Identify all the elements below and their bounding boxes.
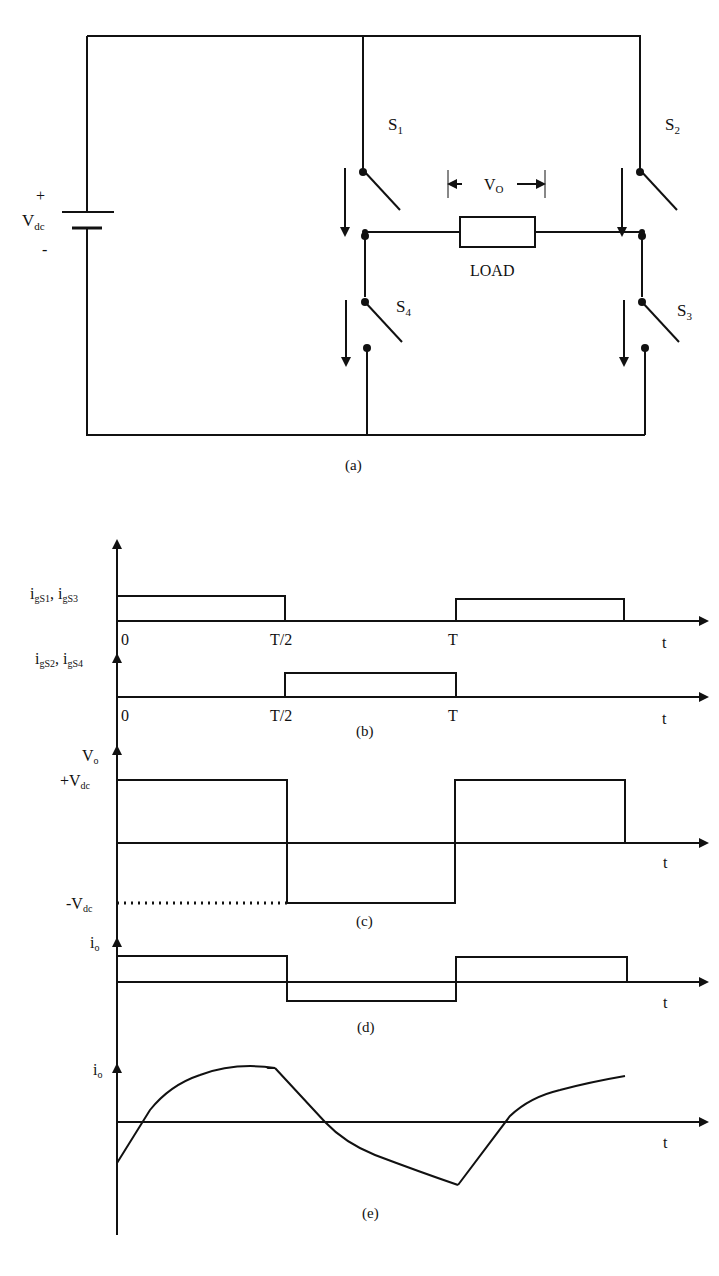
caption-a: (a) [345, 457, 362, 474]
circuit-wires [87, 36, 645, 480]
tick-t2-b2: T/2 [270, 707, 292, 724]
t-label-c: t [663, 854, 668, 871]
switch-s1 [345, 168, 400, 232]
switch-s3 [624, 300, 679, 362]
t-label-b2: t [662, 710, 667, 727]
pos-vdc-label: +Vdc [60, 772, 91, 791]
gate1-ylabel: igS1, igS3 [30, 585, 78, 604]
t-label-b1: t [662, 634, 667, 651]
tick-0-b1: 0 [121, 631, 129, 648]
gate2-ylabel: igS2, igS4 [35, 650, 83, 669]
circuit-nodes [359, 168, 649, 352]
load-label: LOAD [470, 262, 514, 279]
caption-b: (b) [356, 723, 374, 740]
switch-s4 [346, 300, 402, 362]
vo-ylabel: Vo [82, 747, 99, 766]
s4-label: S4 [396, 297, 411, 318]
load-resistor [460, 217, 535, 247]
neg-vdc-label: -Vdc [66, 895, 93, 914]
s3-label: S3 [677, 301, 692, 322]
s1-label: S1 [388, 115, 403, 136]
tick-t-b1: T [448, 631, 458, 648]
io-ylabel-e: io [93, 1061, 102, 1080]
caption-e: (e) [362, 1205, 379, 1222]
gate2-pulse [285, 673, 456, 697]
inverter-figure: Vdc + - S1 S2 S3 S4 LOAD VO (a) [0, 0, 719, 1276]
tick-t2-b1: T/2 [270, 631, 292, 648]
gate1-pulse2 [456, 599, 624, 621]
minus-sign: - [42, 241, 47, 258]
caption-d: (d) [357, 1019, 375, 1036]
io-ylabel-d: io [90, 934, 99, 953]
vdc-label: Vdc [22, 211, 45, 232]
t-label-e: t [663, 1134, 668, 1151]
io-curve-fall [275, 1068, 458, 1185]
io-curve-rise-1 [117, 1066, 275, 1163]
tick-t-b2: T [448, 707, 458, 724]
switch-s2 [622, 168, 677, 232]
plus-sign: + [36, 187, 45, 204]
t-label-d: t [663, 994, 668, 1011]
s2-label: S2 [665, 115, 680, 136]
dc-source [62, 212, 114, 228]
io-curve-rise-2 [458, 1076, 625, 1185]
vo-label: VO [484, 176, 504, 195]
io-square-waveform [117, 956, 627, 1001]
caption-c: (c) [356, 913, 373, 930]
gate1-pulse1 [117, 596, 285, 621]
vo-waveform [117, 780, 625, 903]
tick-0-b2: 0 [121, 707, 129, 724]
